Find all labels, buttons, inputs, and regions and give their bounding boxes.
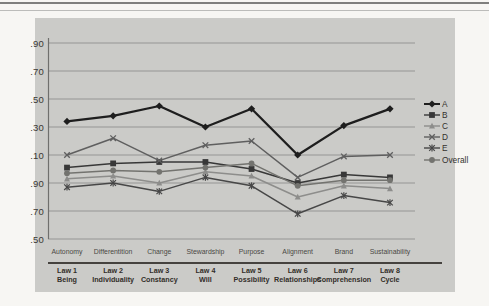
category-axis-labels: AutonomyDifferentitionChangeStewardshipP… — [0, 248, 489, 258]
marker-circle — [387, 177, 393, 183]
legend-entry-c: C — [424, 120, 448, 131]
marker-diamond — [386, 105, 393, 112]
marker-diamond — [110, 112, 117, 119]
legend-entry-overall: Overall — [424, 154, 468, 165]
y-tick-label: .50 — [18, 234, 44, 245]
legend-entry-d: D — [424, 132, 448, 143]
legend-marker-triangle — [424, 121, 441, 131]
y-tick-label: .70 — [18, 206, 44, 217]
marker-circle — [341, 177, 347, 183]
legend-label: B — [442, 110, 448, 120]
y-tick-label: .50 — [18, 94, 44, 105]
marker-diamond — [63, 118, 70, 125]
legend-marker-x — [424, 132, 441, 142]
y-tick-label: .90 — [18, 178, 44, 189]
y-tick-label: .90 — [18, 38, 44, 49]
legend-label: C — [442, 121, 448, 131]
line-chart — [0, 0, 489, 306]
legend-marker-asterisk — [424, 143, 441, 153]
marker-circle — [295, 183, 301, 189]
legend-entry-b: B — [424, 109, 448, 120]
marker-square — [110, 161, 116, 167]
series-line-a — [67, 106, 390, 155]
marker-square — [341, 172, 347, 178]
legend-marker-diamond — [424, 99, 441, 109]
marker-square — [203, 159, 209, 165]
marker-square — [249, 166, 255, 172]
marker-diamond — [156, 102, 163, 109]
law-label-line: Cycle — [357, 276, 423, 285]
category-label: Sustainability — [360, 248, 420, 255]
marker-circle — [156, 169, 162, 175]
marker-diamond — [428, 100, 435, 107]
legend-label: A — [442, 99, 448, 109]
legend-entry-e: E — [424, 143, 448, 154]
marker-circle — [203, 165, 209, 171]
marker-circle — [110, 168, 116, 174]
legend-label: D — [442, 132, 448, 142]
cropped-caption-strip — [0, 299, 489, 306]
legend-label: E — [442, 143, 448, 153]
y-axis-tick-labels: .90.70.50.30.10.90.70.50 — [18, 0, 44, 306]
legend-label: Overall — [442, 155, 468, 165]
y-tick-label: .30 — [18, 122, 44, 133]
marker-square — [64, 165, 70, 171]
legend-marker-square — [424, 110, 441, 120]
law-axis-labels: Law 1BeingLaw 2IndividualityLaw 3Constan… — [0, 267, 489, 287]
legend-entry-a: A — [424, 98, 448, 109]
y-tick-label: .10 — [18, 150, 44, 161]
legend-marker-circle — [424, 155, 441, 165]
marker-circle — [429, 157, 435, 163]
marker-circle — [64, 170, 70, 176]
law-label: Law 8Cycle — [357, 267, 423, 284]
marker-square — [429, 112, 435, 118]
marker-diamond — [202, 123, 209, 130]
marker-circle — [249, 161, 255, 167]
y-tick-label: .70 — [18, 66, 44, 77]
category-law-separator-rule — [48, 262, 442, 264]
